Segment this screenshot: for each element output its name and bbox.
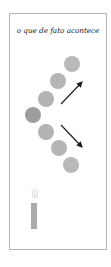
ball-sequence <box>25 56 80 173</box>
direction-arrows <box>61 82 82 147</box>
candle-icon <box>31 189 38 229</box>
ball-2 <box>50 73 66 89</box>
ball-6 <box>51 140 67 156</box>
ball-3 <box>38 91 54 107</box>
ball-1 <box>64 56 80 72</box>
ball-7 <box>63 157 79 173</box>
ball-4 <box>25 107 41 123</box>
diagram-canvas <box>0 0 111 267</box>
ball-5 <box>38 124 54 140</box>
candle-body <box>31 203 37 229</box>
